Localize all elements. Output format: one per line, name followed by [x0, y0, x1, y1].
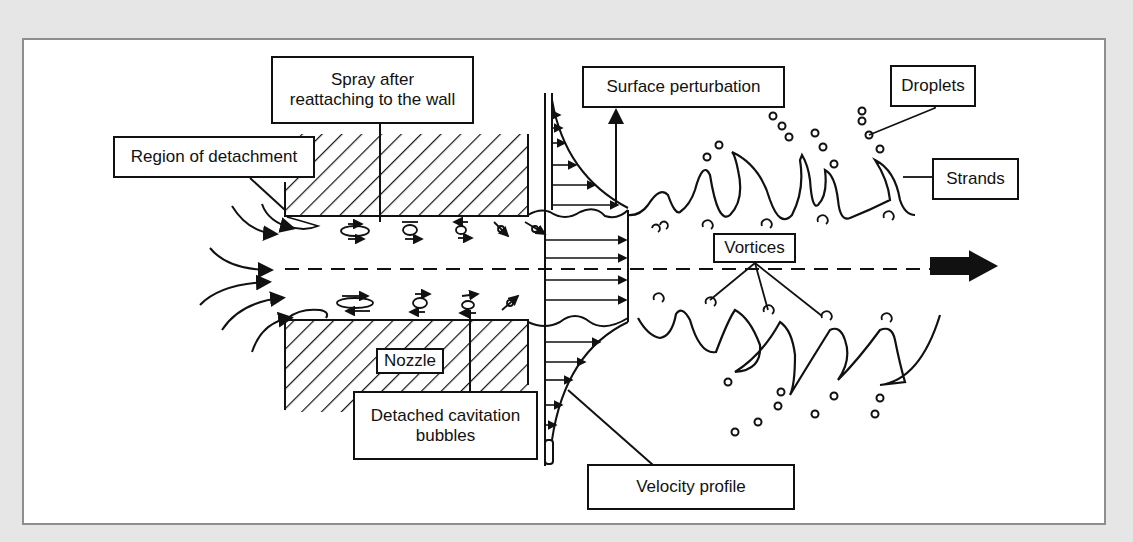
label-text: bubbles [416, 426, 476, 446]
label-vortices: Vortices [713, 233, 796, 263]
label-text: Spray after [331, 70, 414, 90]
label-text: Strands [946, 169, 1005, 189]
vortex-curls [652, 211, 894, 322]
vortices-leaders [710, 263, 822, 316]
label-text: Region of detachment [131, 147, 297, 167]
label-text: Vortices [724, 238, 784, 258]
droplets-leader [869, 104, 935, 135]
label-velocity-profile: Velocity profile [587, 464, 795, 510]
label-text: Surface perturbation [606, 77, 760, 97]
cavitation-bubbles [337, 222, 545, 313]
velocity-profile-leader [568, 390, 653, 465]
label-surface-perturbation: Surface perturbation [582, 66, 785, 108]
label-nozzle: Nozzle [376, 348, 444, 374]
velocity-profile [528, 93, 628, 466]
label-text: Velocity profile [636, 477, 746, 497]
label-detached-cavitation-bubbles: Detached cavitation bubbles [353, 391, 538, 460]
label-text: Droplets [901, 76, 964, 96]
label-droplets: Droplets [890, 65, 976, 107]
right-arrow-icon [931, 252, 996, 280]
label-text: Detached cavitation [371, 406, 520, 426]
label-strands: Strands [932, 158, 1019, 200]
region-detachment-leader [250, 178, 285, 210]
label-spray-reattaching: Spray after reattaching to the wall [271, 56, 474, 124]
label-text: Nozzle [384, 351, 436, 371]
nozzle-upper-wall [285, 122, 528, 222]
label-text: reattaching to the wall [290, 90, 455, 110]
label-region-of-detachment: Region of detachment [113, 136, 315, 178]
upper-strands [628, 152, 915, 219]
lower-strands [638, 310, 940, 395]
